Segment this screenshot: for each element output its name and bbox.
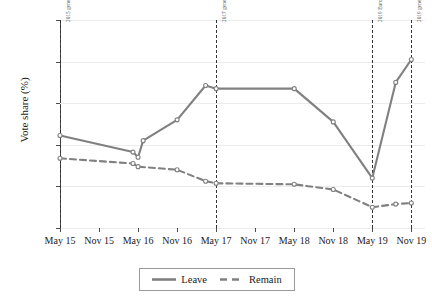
series-line-remain [60,158,411,207]
event-line-label: 2019 general election [416,0,422,22]
chart-container: Vote share (%) 020406080100 May 15Nov 15… [0,0,432,298]
legend-item-leave: Leave [152,274,207,285]
legend-label-leave: Leave [181,274,207,285]
x-tick-mark [99,228,100,232]
plot-area: 020406080100 May 15Nov 15May 16Nov 16May… [60,20,425,228]
data-point [292,87,296,91]
legend-label-remain: Remain [249,274,282,285]
data-point [331,188,335,192]
data-point [58,133,62,137]
data-point [409,201,413,205]
event-line-label: 2019 European Parliament election [377,0,383,22]
y-axis-title: Vote share (%) [18,40,30,180]
data-point [136,165,140,169]
x-tick-mark [138,228,139,232]
x-tick-mark [294,228,295,232]
legend-item-remain: Remain [220,274,282,285]
legend-swatch-dashed [220,275,244,284]
data-point [136,155,140,159]
data-point [175,168,179,172]
data-point [214,87,218,91]
x-tick-mark [216,228,217,232]
x-tick-mark [333,228,334,232]
data-point [370,205,374,209]
gridline [60,228,425,229]
data-point [370,176,374,180]
data-point [131,150,135,154]
data-point [58,156,62,160]
event-line-label: 2017 general election [221,0,227,22]
x-tick-mark [255,228,256,232]
chart-legend: Leave Remain [139,268,295,291]
x-tick-label: Nov 19 [381,235,432,246]
data-point [141,139,145,143]
x-tick-mark [177,228,178,232]
x-tick-mark [60,228,61,232]
series-line-leave [60,60,411,179]
data-point [175,118,179,122]
data-point [292,182,296,186]
legend-swatch-solid [152,275,176,284]
data-point [214,181,218,185]
x-tick-mark [372,228,373,232]
data-point [394,80,398,84]
event-line-label: 2015 general election [65,0,71,22]
data-point [331,120,335,124]
data-point [131,162,135,166]
data-point [394,202,398,206]
data-point [204,84,208,88]
data-point [204,179,208,183]
series-lines [60,20,425,228]
data-point [409,58,413,62]
x-tick-mark [411,228,412,232]
